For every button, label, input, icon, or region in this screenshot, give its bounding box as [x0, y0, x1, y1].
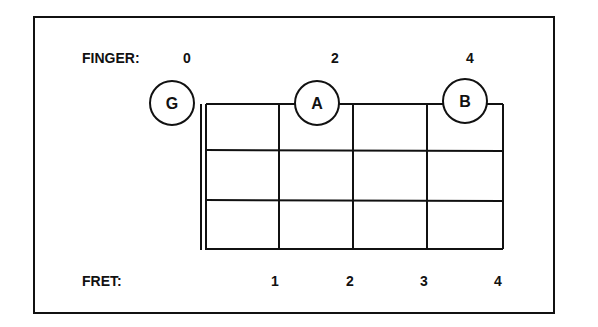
fret-value-3: 3 — [420, 273, 428, 289]
string-line — [206, 150, 503, 151]
finger-value-2: 2 — [331, 50, 339, 66]
fret-value-4: 4 — [494, 273, 502, 289]
note-label: G — [166, 95, 178, 112]
fret-value-1: 1 — [271, 273, 279, 289]
note-label: B — [459, 93, 471, 110]
note-g: G — [150, 81, 194, 125]
fretboard-diagram: FINGER: 0 2 4 G A B FRET: 1 2 3 4 — [0, 0, 598, 327]
note-label: A — [311, 95, 323, 112]
fret-label: FRET: — [82, 273, 122, 289]
finger-value-0: 0 — [183, 50, 191, 66]
note-b: B — [443, 79, 487, 123]
string-line — [206, 200, 503, 201]
note-a: A — [295, 81, 339, 125]
fret-value-2: 2 — [346, 273, 354, 289]
finger-label: FINGER: — [82, 50, 140, 66]
finger-value-4: 4 — [466, 50, 474, 66]
